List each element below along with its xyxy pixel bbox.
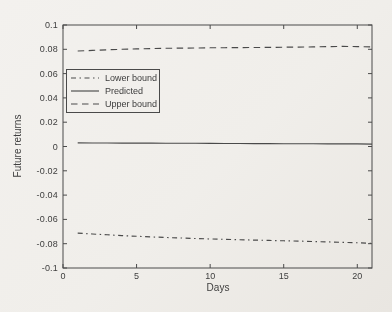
legend-label: Lower bound <box>105 73 157 83</box>
y-tick-label: 0.02 <box>0 117 58 127</box>
y-tick-label: 0 <box>0 142 58 152</box>
solid-line-icon <box>70 85 100 97</box>
y-tick-label: 0.04 <box>0 93 58 103</box>
x-tick-label: 0 <box>60 271 65 281</box>
legend-label: Predicted <box>105 86 143 96</box>
y-axis-label: Future returns <box>12 115 23 178</box>
legend-entry-lower-bound: Lower bound <box>70 72 156 84</box>
legend-label: Upper bound <box>105 99 157 109</box>
x-axis-label: Days <box>207 282 230 293</box>
figure: 0.10.080.060.040.020-0.02-0.04-0.06-0.08… <box>0 0 392 312</box>
y-tick-label: -0.1 <box>0 263 58 273</box>
x-tick-label: 20 <box>352 271 362 281</box>
series-upper-bound <box>78 46 372 51</box>
dashed-line-icon <box>70 98 100 110</box>
y-tick-label: -0.04 <box>0 190 58 200</box>
y-tick-label: -0.06 <box>0 214 58 224</box>
y-tick-label: -0.08 <box>0 239 58 249</box>
y-tick-label: -0.02 <box>0 166 58 176</box>
plot-box <box>63 25 372 268</box>
y-tick-label: 0.06 <box>0 69 58 79</box>
series-lower-bound <box>78 233 372 243</box>
dashdot-line-icon <box>70 72 100 84</box>
y-tick-label: 0.08 <box>0 44 58 54</box>
series-predicted <box>78 143 372 144</box>
x-tick-label: 10 <box>205 271 215 281</box>
legend-entry-predicted: Predicted <box>70 85 156 97</box>
legend: Lower bound Predicted Upper bound <box>66 69 160 113</box>
x-tick-label: 5 <box>134 271 139 281</box>
y-tick-label: 0.1 <box>0 20 58 30</box>
x-tick-label: 15 <box>279 271 289 281</box>
legend-entry-upper-bound: Upper bound <box>70 98 156 110</box>
chart-canvas <box>0 0 392 312</box>
